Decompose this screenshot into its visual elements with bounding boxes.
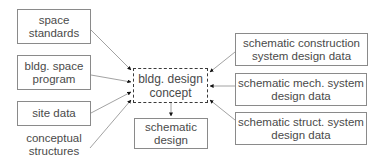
schematic-struct-line1: schematic struct. system	[238, 116, 364, 129]
conceptual-structures-label: conceptual structures	[20, 132, 88, 158]
arrow-conceptual-structures	[90, 100, 131, 148]
schematic-struct-line2: design data	[238, 129, 364, 142]
schematic-design-box: schematicdesign	[134, 118, 208, 149]
center-line1: bldg. design	[138, 72, 203, 86]
schematic-struct-box: schematic struct. systemdesign data	[235, 112, 367, 145]
arrow-site-data	[91, 92, 131, 113]
schematic-construction-line2: system design data	[243, 50, 360, 63]
schematic-construction-line1: schematic construction	[243, 37, 360, 50]
bldg-space-program-line1: bldg. space	[25, 60, 84, 73]
bldg-space-program-line2: program	[25, 73, 84, 86]
arrow-bldg-space-program	[91, 75, 131, 82]
bldg-design-concept-box: bldg. designconcept	[133, 68, 208, 103]
arrow-schematic-struct	[210, 100, 235, 120]
space-standards-line1: space	[29, 14, 80, 27]
schematic-mech-line2: design data	[238, 90, 364, 103]
site-data-box: site data	[17, 101, 91, 126]
schematic-construction-box: schematic constructionsystem design data	[235, 33, 368, 66]
space-standards-line2: standards	[29, 27, 80, 40]
conceptual-structures-line1: conceptual	[20, 132, 88, 145]
space-standards-box: spacestandards	[17, 9, 91, 44]
schematic-mech-line1: schematic mech. system	[238, 77, 364, 90]
schematic-mech-box: schematic mech. systemdesign data	[235, 73, 367, 106]
conceptual-structures-line2: structures	[20, 145, 88, 158]
schematic-design-line2: design	[145, 134, 197, 147]
arrow-space-standards	[91, 30, 131, 70]
arrow-schematic-construction	[210, 52, 235, 72]
bldg-space-program-box: bldg. spaceprogram	[17, 55, 91, 90]
center-line2: concept	[138, 86, 203, 100]
site-data-label: site data	[32, 107, 75, 120]
schematic-design-line1: schematic	[145, 121, 197, 134]
